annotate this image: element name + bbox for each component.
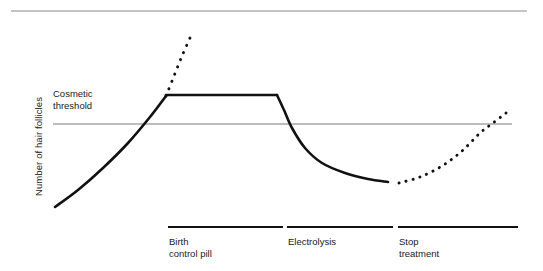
chart-canvas (0, 0, 543, 271)
y-axis-label: Number of hair follicles (33, 36, 44, 196)
curve-untreated-rise (55, 96, 166, 207)
phase-label-stop-treatment-line1: Stop (399, 236, 439, 248)
cosmetic-threshold-label: Cosmetic threshold (53, 88, 93, 111)
curve-electrolysis-decline (277, 95, 388, 182)
phase-label-stop-treatment-line2: treatment (399, 248, 439, 260)
y-axis-label-wrap: Number of hair follicles (33, 196, 34, 197)
phase-label-stop-treatment: Stop treatment (399, 236, 439, 259)
cosmetic-threshold-label-line1: Cosmetic (53, 88, 93, 100)
phase-label-electrolysis: Electrolysis (288, 236, 336, 248)
phase-label-birth-control-pill-line2: control pill (169, 248, 212, 260)
phase-label-electrolysis-line1: Electrolysis (288, 236, 336, 248)
cosmetic-threshold-label-line2: threshold (53, 100, 93, 112)
curve-no-treatment-projection (166, 38, 190, 96)
phase-label-birth-control-pill: Birth control pill (169, 236, 212, 259)
phase-label-birth-control-pill-line1: Birth (169, 236, 212, 248)
chart-figure: Number of hair follicles Cosmetic thresh… (0, 0, 543, 271)
